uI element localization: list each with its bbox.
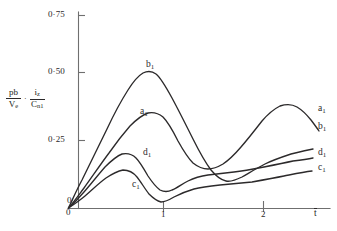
- curve-label-d1-peak: d1: [143, 148, 151, 159]
- y-axis-label-numerator-2: iz: [33, 88, 40, 99]
- plot-area: [0, 0, 337, 231]
- y-axis-label-separator: ·: [24, 94, 27, 104]
- curve-label-b1-peak: b1: [146, 60, 154, 71]
- y-tick-label-075: 0·75: [48, 10, 65, 19]
- curve-b1: [69, 72, 314, 208]
- curve-label-a1-peak: a1: [140, 107, 148, 118]
- curve-c1: [69, 170, 313, 208]
- x-origin-label: 0: [66, 208, 71, 217]
- x-tick-label-1: 1: [161, 210, 166, 219]
- curve-label-b1-right: b1: [318, 122, 326, 133]
- figure-container: pb Ve · iz Cn1 0·75 0·50 0·25 0 0 1 2 t …: [0, 0, 337, 231]
- y-tick-label-025: 0·25: [48, 135, 65, 144]
- y-axis-label-numerator-1: pb: [8, 88, 19, 98]
- curve-label-a1-right: a1: [318, 104, 326, 115]
- curve-label-d1-right: d1: [318, 148, 326, 159]
- curve-label-c1-peak: c1: [132, 180, 140, 191]
- x-axis-label: t: [314, 208, 317, 219]
- y-axis-label-fraction-1: pb Ve: [6, 88, 21, 110]
- curve-a1: [69, 105, 320, 208]
- y-origin-label: 0: [67, 196, 72, 205]
- y-axis-label-denominator-2: Cn1: [30, 100, 45, 111]
- x-tick-label-2: 2: [261, 210, 266, 219]
- curve-d1: [69, 154, 314, 208]
- y-tick-label-050: 0·50: [48, 67, 65, 76]
- x-axis-label-text: t: [314, 208, 317, 219]
- y-axis-label-fraction-2: iz Cn1: [30, 88, 45, 110]
- y-axis-label: pb Ve · iz Cn1: [6, 88, 45, 110]
- y-axis-label-denominator-1: Ve: [8, 99, 19, 110]
- curve-label-c1-right: c1: [318, 163, 326, 174]
